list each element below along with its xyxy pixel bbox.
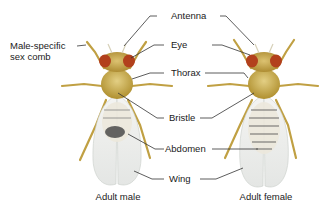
label-antenna: Antenna [171, 10, 206, 21]
caption-adult-male: Adult male [96, 191, 141, 202]
male-fly [62, 42, 172, 185]
label-sex-comb-line1: Male-specific [10, 40, 65, 51]
label-eye: Eye [171, 39, 187, 50]
label-abdomen: Abdomen [165, 143, 206, 154]
label-sex-comb-line2: sex comb [10, 51, 65, 62]
female-fly [208, 40, 318, 187]
label-sex-comb: Male-specific sex comb [10, 40, 65, 62]
label-wing: Wing [169, 173, 191, 184]
label-bristle: Bristle [169, 112, 195, 123]
caption-adult-female: Adult female [240, 191, 293, 202]
fly-diagram [0, 0, 335, 211]
label-thorax: Thorax [171, 67, 201, 78]
